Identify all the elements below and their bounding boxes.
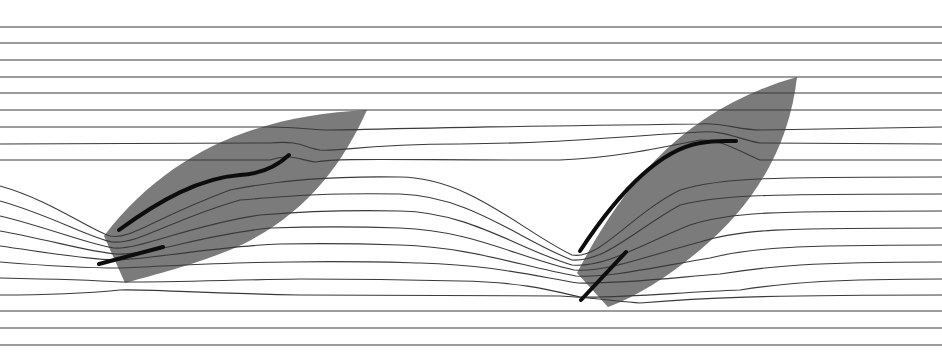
background [0,0,942,357]
sailing-streamlines-diagram [0,0,942,357]
